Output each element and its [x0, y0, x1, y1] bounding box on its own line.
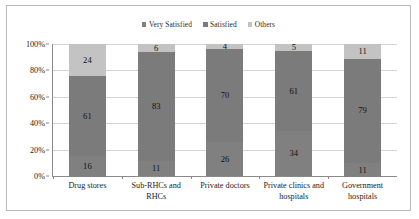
x-axis-category-label: Private doctors — [191, 180, 260, 216]
category-label-line: hospitals — [329, 191, 396, 202]
y-axis-tick-mark — [46, 70, 49, 71]
y-axis-tick-mark — [46, 96, 49, 97]
category-label-line: hospitals — [260, 191, 327, 202]
bar-value-label: 61 — [83, 112, 92, 121]
y-axis-tick-labels: 100%80%60%40%20%0% — [7, 44, 49, 176]
bar-value-label: 26 — [221, 155, 230, 164]
bar-segment[interactable]: 26 — [206, 142, 243, 176]
bar-segment[interactable]: 70 — [206, 49, 243, 141]
bar-value-label: 11 — [358, 47, 366, 56]
legend-label: Others — [255, 20, 275, 29]
bar-value-label: 24 — [83, 56, 92, 65]
bar-segment[interactable]: 11 — [344, 44, 381, 59]
category-label-line: Private doctors — [192, 180, 259, 191]
bar-value-label: 70 — [221, 91, 230, 100]
stacked-bar[interactable]: 68311 — [138, 44, 175, 176]
bar-segment[interactable]: 61 — [69, 76, 106, 157]
bar-value-label: 11 — [358, 166, 366, 175]
x-axis-category-label: Drug stores — [53, 180, 122, 216]
x-axis-tick-mark — [328, 176, 329, 179]
legend-swatch-icon — [248, 22, 253, 27]
bar-value-label: 79 — [358, 106, 367, 115]
bar-value-label: 34 — [289, 149, 298, 158]
bar-slot: 47026 — [191, 44, 260, 176]
legend-swatch-icon — [203, 22, 208, 27]
bar-value-label: 16 — [83, 162, 92, 171]
bar-slot: 68311 — [122, 44, 191, 176]
bar-value-label: 5 — [292, 44, 296, 51]
stacked-bar[interactable]: 47026 — [206, 44, 243, 176]
x-axis-tick-mark — [122, 176, 123, 179]
stacked-bar[interactable]: 246116 — [69, 44, 106, 176]
stacked-bar[interactable]: 117911 — [344, 44, 381, 176]
bar-segment[interactable]: 79 — [344, 59, 381, 163]
bar-segment[interactable]: 11 — [138, 161, 175, 176]
bar-segment[interactable]: 83 — [138, 52, 175, 162]
plot-area: 246116683114702656134117911 — [53, 44, 397, 176]
bar-slot: 56134 — [259, 44, 328, 176]
y-axis-tick-mark — [46, 44, 49, 45]
legend-entry[interactable]: Satisfied — [203, 20, 237, 29]
legend-entry[interactable]: Others — [248, 20, 275, 29]
bar-segment[interactable]: 5 — [275, 44, 312, 51]
x-axis-category-label: Governmenthospitals — [328, 180, 397, 216]
bar-segment[interactable]: 24 — [69, 44, 106, 76]
y-axis-tick-label: 40% — [30, 119, 45, 128]
x-axis-category-label: Sub-RHCs andRHCs — [122, 180, 191, 216]
legend-label: Satisfied — [210, 20, 237, 29]
y-axis-tick-mark — [46, 149, 49, 150]
x-axis-tick-mark — [53, 176, 54, 179]
bar-segment[interactable]: 6 — [138, 44, 175, 52]
category-label-line: Government — [329, 180, 396, 191]
y-axis-tick-label: 100% — [26, 40, 45, 49]
y-axis-tick-mark — [46, 123, 49, 124]
x-axis-category-label: Private clinics andhospitals — [259, 180, 328, 216]
bar-slot: 117911 — [328, 44, 397, 176]
bar-segment[interactable]: 61 — [275, 51, 312, 132]
y-axis-tick-label: 20% — [30, 145, 45, 154]
stacked-bar[interactable]: 56134 — [275, 44, 312, 176]
bar-segment[interactable]: 11 — [344, 163, 381, 178]
y-axis-tick-label: 60% — [30, 92, 45, 101]
category-label-line: Drug stores — [54, 180, 121, 191]
bar-segment[interactable]: 34 — [275, 131, 312, 176]
legend-label: Very Satisfied — [149, 20, 192, 29]
bar-series-group: 246116683114702656134117911 — [53, 44, 397, 176]
category-label-line: Sub-RHCs and — [123, 180, 190, 191]
legend-swatch-icon — [142, 22, 147, 27]
y-axis-tick-label: 0% — [34, 172, 45, 181]
bar-segment[interactable]: 16 — [69, 156, 106, 177]
bar-value-label: 83 — [152, 102, 161, 111]
category-label-line: Private clinics and — [260, 180, 327, 191]
bar-value-label: 61 — [289, 87, 298, 96]
chart-legend: Very SatisfiedSatisfiedOthers — [7, 20, 410, 29]
y-axis-tick-mark — [46, 176, 49, 177]
category-label-line: RHCs — [123, 191, 190, 202]
legend-entry[interactable]: Very Satisfied — [142, 20, 192, 29]
x-axis-category-labels: Drug storesSub-RHCs andRHCsPrivate docto… — [53, 180, 397, 216]
y-axis-tick-label: 80% — [30, 66, 45, 75]
x-axis-tick-mark — [191, 176, 192, 179]
bar-value-label: 6 — [154, 44, 158, 52]
chart-frame: Very SatisfiedSatisfiedOthers 100%80%60%… — [6, 5, 411, 211]
bar-slot: 246116 — [53, 44, 122, 176]
x-axis-tick-mark — [259, 176, 260, 179]
bar-value-label: 11 — [152, 164, 160, 173]
